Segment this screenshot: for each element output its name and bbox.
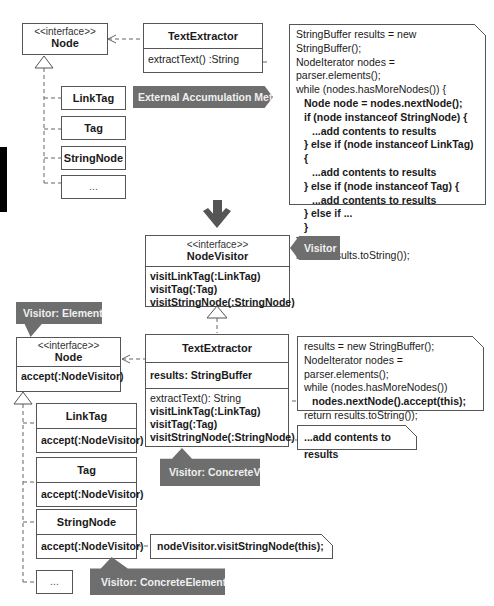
class-name: Tag — [37, 458, 136, 482]
code-line: ...add contents to results — [296, 166, 479, 180]
class-name: StringNode — [37, 510, 136, 534]
bottom-text-extractor-class[interactable]: TextExtractor results: StringBuffer extr… — [145, 334, 289, 447]
down-arrow-icon — [203, 200, 231, 228]
bottom-tag-class[interactable]: Tag accept(:NodeVisitor) — [36, 457, 137, 507]
bottom-node-interface[interactable]: <<interface>> Node accept(:NodeVisitor) — [16, 337, 121, 392]
class-name: Node — [23, 37, 107, 49]
top-text-extractor-class[interactable]: TextExtractor extractText() :String — [143, 23, 263, 73]
code-line: } else if (node instanceof LinkTag) { — [296, 138, 479, 166]
class-name: NodeVisitor — [146, 250, 289, 262]
class-operation: visitStringNode(:StringNode) — [150, 296, 285, 309]
code-line: ...add contents to results — [296, 194, 479, 208]
class-name: TextExtractor — [144, 24, 262, 48]
class-attribute: results: StringBuffer — [146, 362, 288, 388]
accept-note: nodeVisitor.visitStringNode(this); — [150, 534, 333, 559]
class-name: TextExtractor — [146, 335, 288, 362]
class-operation: accept(:NodeVisitor) — [37, 428, 136, 452]
top-stringnode-class[interactable]: StringNode — [61, 146, 126, 170]
code-line: StringBuffer results = new StringBuffer(… — [296, 28, 479, 56]
class-operation: extractText(): String — [150, 392, 284, 405]
code-line: } else if (node instanceof Tag) { — [296, 180, 479, 194]
code-line: while (nodes.hasMoreNodes()) { — [296, 83, 479, 97]
code-line: ...add contents to results — [296, 125, 479, 139]
code-line: results = new StringBuffer(); — [304, 340, 477, 354]
class-operation: visitLinkTag(:LinkTag) — [150, 405, 284, 418]
code-line: } else if ... — [296, 207, 479, 221]
top-more-classes[interactable]: ... — [61, 175, 126, 199]
code-line: while (nodes.hasMoreNodes()) — [304, 381, 477, 395]
class-operation: visitTag(:Tag) — [150, 283, 285, 296]
external-accumulation-banner: External Accumulation Method — [133, 86, 273, 108]
code-line: NodeIterator nodes = parser.elements(); — [296, 56, 479, 84]
code-line: return results.toString()); — [304, 409, 477, 423]
node-visitor-interface[interactable]: <<interface>> NodeVisitor visitLinkTag(:… — [145, 235, 290, 307]
class-operation: accept(:NodeVisitor) — [37, 534, 136, 558]
top-tag-class[interactable]: Tag — [61, 116, 126, 140]
code-line: Node node = nodes.nextNode(); — [296, 97, 479, 111]
bottom-stringnode-class[interactable]: StringNode accept(:NodeVisitor) — [36, 509, 137, 559]
class-operation: extractText() :String — [144, 48, 262, 70]
visitor-role-tag: Visitor — [290, 236, 340, 260]
stereotype-label: <<interface>> — [17, 340, 120, 351]
top-node-interface[interactable]: <<interface>> Node — [22, 23, 108, 55]
code-line: NodeIterator nodes = parser.elements(); — [304, 354, 477, 382]
class-name: LinkTag — [37, 404, 136, 428]
visit-contents-note: ...add contents to results — [297, 425, 417, 450]
code-line: nodes.nextNode().accept(this); — [304, 395, 477, 409]
class-name: Node — [17, 351, 120, 363]
stereotype-label: <<interface>> — [23, 26, 107, 37]
class-operation: accept(:NodeVisitor) — [17, 366, 120, 386]
top-linktag-class[interactable]: LinkTag — [61, 86, 126, 110]
class-operation: accept(:NodeVisitor) — [37, 482, 136, 506]
top-code-note: StringBuffer results = new StringBuffer(… — [289, 24, 486, 205]
stereotype-label: <<interface>> — [146, 239, 289, 250]
code-line: if (node instanceof StringNode) { — [296, 111, 479, 125]
class-operation: visitStringNode(:StringNode) — [150, 431, 284, 444]
bottom-more-classes[interactable]: ... — [36, 570, 73, 594]
class-operation: visitLinkTag(:LinkTag) — [150, 270, 285, 283]
page-edge-marker — [0, 147, 7, 212]
code-line: } — [296, 221, 479, 235]
class-operation: visitTag(:Tag) — [150, 418, 284, 431]
extract-text-note: results = new StringBuffer(); NodeIterat… — [297, 336, 484, 411]
bottom-linktag-class[interactable]: LinkTag accept(:NodeVisitor) — [36, 403, 137, 453]
